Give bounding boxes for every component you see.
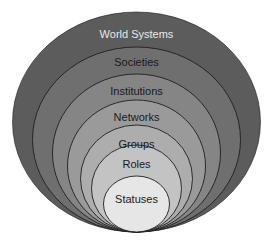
label-statuses: Statuses <box>115 193 158 205</box>
label-world-systems: World Systems <box>100 28 174 40</box>
label-networks: Networks <box>114 111 160 123</box>
label-groups: Groups <box>118 138 155 150</box>
label-roles: Roles <box>122 158 151 170</box>
nested-levels-diagram: World Systems Societies Institutions Net… <box>0 0 273 241</box>
label-societies: Societies <box>114 56 159 68</box>
label-institutions: Institutions <box>110 85 163 97</box>
